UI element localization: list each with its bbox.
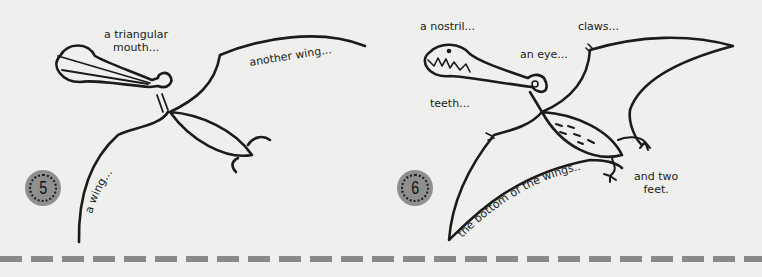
label-claws: claws... — [578, 20, 619, 33]
drawing-steps-page: a wing... the bottom of the wings... ano… — [0, 0, 762, 277]
step6-pterodactyl-illustration — [425, 38, 733, 240]
label-triangular-mouth-line1: a triangular — [104, 28, 168, 41]
step-number: 5 — [39, 177, 47, 199]
label-feet-line2: feet. — [634, 183, 678, 196]
label-feet: and two feet. — [634, 170, 678, 196]
step-number: 6 — [411, 177, 419, 199]
dashed-divider — [0, 256, 762, 262]
label-eye: an eye... — [520, 48, 568, 61]
label-triangular-mouth-line2: mouth... — [104, 41, 168, 54]
step-badge-5: 5 — [25, 170, 61, 206]
label-a-wing: a wing... — [82, 166, 115, 215]
step-badge-6: 6 — [397, 170, 433, 206]
label-feet-line1: and two — [634, 170, 678, 183]
label-nostril: a nostril... — [420, 20, 475, 33]
label-triangular-mouth: a triangular mouth... — [104, 28, 168, 54]
step5-pterodactyl-illustration — [56, 36, 365, 242]
label-teeth: teeth... — [430, 97, 470, 110]
label-another-wing: another wing... — [248, 43, 332, 69]
